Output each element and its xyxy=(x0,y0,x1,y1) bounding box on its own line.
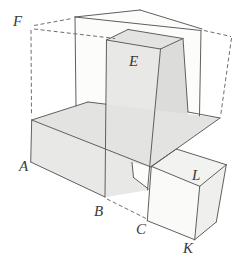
box-bottom-front-dashed xyxy=(107,199,146,219)
box-front-left-vertical-dashed xyxy=(31,30,32,116)
box-top-left-dashed xyxy=(34,19,72,26)
box-right-vertical-dashed xyxy=(221,38,232,117)
box-top-right-dashed xyxy=(204,31,231,37)
vertex-label-K: K xyxy=(182,240,194,256)
vertex-label-E: E xyxy=(128,53,138,69)
vertex-label-C: C xyxy=(136,221,147,237)
vertex-label-A: A xyxy=(18,158,29,174)
composite-solid-figure: FEABCKL xyxy=(0,0,244,272)
geometry-diagram-canvas: FEABCKL xyxy=(0,0,244,272)
vertex-label-L: L xyxy=(191,167,200,183)
vertex-label-F: F xyxy=(12,13,23,29)
vertex-label-B: B xyxy=(94,203,103,219)
